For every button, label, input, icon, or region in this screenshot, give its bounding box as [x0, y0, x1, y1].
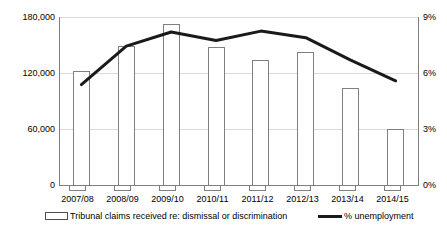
- bar-2010-11: [208, 47, 225, 186]
- x-tick-2012-13: [294, 186, 311, 191]
- line-swatch-icon: [318, 215, 342, 218]
- gridline-60000: [59, 129, 418, 130]
- left-axis-tick-0: 0: [50, 181, 55, 190]
- x-axis-label-2007-08: 2007/08: [52, 194, 103, 204]
- x-axis-label-2013-14: 2013/14: [322, 194, 373, 204]
- bar-2014-15: [387, 129, 404, 186]
- bar-2011-12: [252, 60, 269, 186]
- x-tick-2011-12: [249, 186, 266, 191]
- x-tick-2014-15: [384, 186, 401, 191]
- x-tick-2007-08: [69, 186, 86, 191]
- legend-label-unemployment: % unemployment: [344, 211, 414, 221]
- x-tick-2013-14: [339, 186, 356, 191]
- left-axis-tick-180000: 180,000: [22, 13, 55, 22]
- x-tick-2009-10: [159, 186, 176, 191]
- gridline-120000: [59, 73, 418, 74]
- bar-2013-14: [342, 88, 359, 186]
- right-axis-tick-9pct: 9%: [423, 13, 436, 22]
- right-axis-tick-3pct: 3%: [423, 125, 436, 134]
- x-axis-label-2011-12: 2011/12: [232, 194, 283, 204]
- legend-item-tribunal-claims: Tribunal claims received re: dismissal o…: [45, 211, 287, 221]
- right-axis-tick-6pct: 6%: [423, 69, 436, 78]
- left-axis-tick-120000: 120,000: [22, 69, 55, 78]
- x-axis-label-2009-10: 2009/10: [142, 194, 193, 204]
- plot-area: [59, 17, 418, 186]
- left-axis-tick-60000: 60,000: [27, 125, 55, 134]
- x-axis-label-2008-09: 2008/09: [97, 194, 148, 204]
- chart-container: 180,000 120,000 60,000 0 9% 6% 3% 0% 200…: [0, 0, 447, 228]
- x-axis-label-2014-15: 2014/15: [367, 194, 418, 204]
- gridline-zero-baseline: [59, 185, 418, 186]
- right-axis-tick-0pct: 0%: [423, 181, 436, 190]
- right-axis-line: [418, 17, 419, 186]
- left-axis-line: [59, 17, 60, 186]
- x-axis-label-2010-11: 2010/11: [187, 194, 238, 204]
- x-axis-label-2012-13: 2012/13: [277, 194, 328, 204]
- gridline-180000: [59, 17, 418, 18]
- chart-legend: Tribunal claims received re: dismissal o…: [0, 208, 447, 226]
- legend-item-unemployment: % unemployment: [318, 211, 414, 221]
- x-tick-2008-09: [114, 186, 131, 191]
- legend-label-tribunal-claims: Tribunal claims received re: dismissal o…: [70, 211, 287, 221]
- bar-swatch-icon: [45, 212, 68, 220]
- bar-2012-13: [297, 52, 314, 186]
- x-tick-2010-11: [204, 186, 221, 191]
- bar-2007-08: [73, 71, 90, 186]
- bar-2009-10: [163, 24, 180, 186]
- bar-2008-09: [118, 46, 135, 186]
